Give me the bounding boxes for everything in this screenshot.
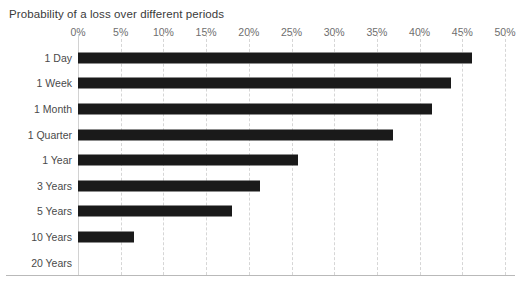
bar [78, 129, 393, 140]
bar [78, 180, 260, 191]
category-label: 20 Years [31, 257, 72, 269]
category-label: 1 Month [34, 103, 72, 115]
category-label: 1 Week [37, 77, 72, 89]
category-label: 1 Quarter [28, 129, 72, 141]
bar-chart: Probability of a loss over different per… [0, 0, 521, 286]
category-label: 5 Years [37, 205, 72, 217]
plot-area [78, 45, 505, 275]
bar [78, 206, 232, 217]
category-label: 1 Year [42, 154, 72, 166]
bar [78, 155, 298, 166]
gridline [505, 34, 506, 275]
category-label: 3 Years [37, 180, 72, 192]
bar [78, 104, 432, 115]
bar [78, 78, 451, 89]
bar [78, 232, 134, 243]
y-axis-category-labels: 1 Day1 Week1 Month1 Quarter1 Year3 Years… [0, 0, 72, 286]
bar [78, 52, 472, 63]
bottom-rule [6, 275, 515, 276]
category-label: 10 Years [31, 231, 72, 243]
category-label: 1 Day [45, 52, 72, 64]
